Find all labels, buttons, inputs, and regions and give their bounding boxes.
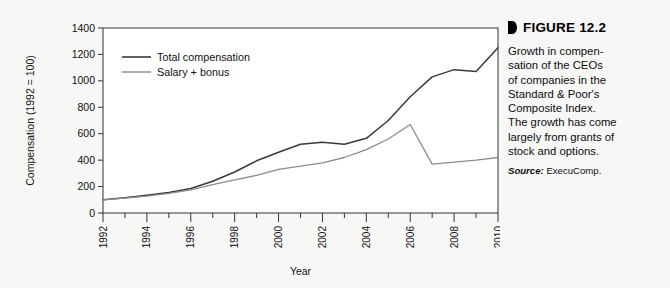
x-tick-label: 1996	[185, 226, 196, 249]
y-tick-label: 0	[89, 207, 95, 219]
y-tick-label: 1200	[72, 48, 96, 60]
figure-body-line: sation of the CEOs	[508, 58, 660, 72]
y-tick-label: 200	[77, 180, 95, 192]
figure-body-line: Standard & Poor's	[508, 87, 660, 101]
figure-body-line: of companies in the	[508, 73, 660, 87]
source-value: ExecuComp.	[546, 165, 601, 176]
legend-label-0: Total compensation	[157, 51, 250, 63]
x-tick-label: 2006	[405, 226, 416, 249]
x-tick-label: 2004	[361, 226, 372, 249]
figure-body-line: Composite Index.	[508, 101, 660, 115]
legend-label-1: Salary + bonus	[157, 66, 230, 78]
y-tick-label: 1000	[72, 74, 96, 86]
figure-body-line: The growth has come	[508, 115, 660, 129]
figure-title: FIGURE 12.2	[523, 20, 606, 35]
figure-body-line: Growth in compen-	[508, 44, 660, 58]
figure-source: Source: ExecuComp.	[508, 165, 660, 176]
x-tick-label: 2002	[317, 226, 328, 249]
y-tick-label: 600	[77, 127, 95, 139]
chart-container: 0200400600800100012001400199219941996199…	[0, 0, 500, 288]
y-axis-label: Compensation (1992 = 100)	[24, 55, 36, 185]
line-chart: 0200400600800100012001400199219941996199…	[0, 0, 500, 288]
x-tick-label: 1998	[229, 226, 240, 249]
y-tick-label: 800	[77, 101, 95, 113]
x-tick-label: 2008	[449, 226, 460, 249]
x-tick-label: 1992	[98, 226, 109, 249]
x-tick-label: 2010	[493, 226, 501, 249]
figure-body-text: Growth in compen-sation of the CEOsof co…	[508, 44, 660, 158]
y-tick-label: 400	[77, 154, 95, 166]
triangle-right-icon	[508, 21, 517, 34]
figure-body-line: stock and options.	[508, 144, 660, 158]
x-axis-label: Year	[290, 265, 312, 277]
source-label: Source:	[508, 165, 544, 176]
y-tick-label: 1400	[72, 22, 96, 34]
figure-body-line: largely from grants of	[508, 130, 660, 144]
figure-caption: FIGURE 12.2 Growth in compen-sation of t…	[508, 20, 660, 176]
figure-heading: FIGURE 12.2	[508, 20, 660, 35]
x-tick-label: 2000	[273, 226, 284, 249]
figure-panel: 0200400600800100012001400199219941996199…	[0, 0, 670, 288]
x-tick-label: 1994	[141, 226, 152, 249]
